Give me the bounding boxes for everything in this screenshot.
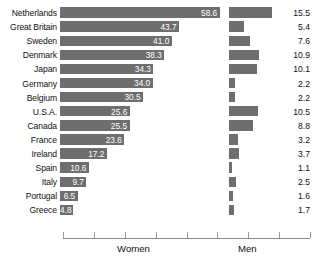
category-label: Ireland [0, 149, 60, 159]
bar-men-value-label: 10.5 [279, 107, 313, 117]
chart-row: Germany34.02.2 [0, 76, 313, 90]
category-label: Belgium [0, 93, 60, 103]
x-axis-line [63, 238, 310, 239]
bar-men-value-label: 15.5 [279, 8, 313, 18]
category-label: Canada [0, 121, 60, 131]
men-bar-zone [229, 20, 279, 34]
bar-men-value-label: 8.8 [279, 121, 313, 131]
men-bar-zone [229, 175, 279, 189]
bar-men [229, 106, 258, 116]
bar-men [229, 64, 257, 74]
bar-men [229, 21, 244, 31]
chart-row: Ireland17.23.7 [0, 147, 313, 161]
category-label: Spain [0, 163, 60, 173]
chart-rows: Netherlands58.615.5Great Britain43.75.4S… [0, 6, 313, 217]
chart-row: U.S.A.25.610.5 [0, 105, 313, 119]
bar-men [229, 148, 239, 158]
women-bar-zone: 58.6 [60, 6, 229, 20]
bar-men-value-label: 1.7 [279, 205, 313, 215]
axis-caption-women: Women [117, 243, 150, 255]
women-bar-zone: 38.3 [60, 48, 229, 62]
bar-women-value-label: 58.6 [60, 8, 220, 18]
category-label: Netherlands [0, 8, 60, 18]
bar-men [229, 191, 233, 201]
bar-women-value-label: 23.6 [60, 135, 124, 145]
bar-women-value-label: 4.8 [60, 205, 73, 215]
bar-women-value-label: 25.6 [60, 107, 130, 117]
category-label: Portugal [0, 191, 60, 201]
category-label: U.S.A. [0, 107, 60, 117]
women-bar-zone: 25.6 [60, 105, 229, 119]
women-bar-zone: 41.0 [60, 34, 229, 48]
men-bar-zone [229, 189, 279, 203]
x-axis-tick [217, 232, 218, 238]
women-bar-zone: 30.5 [60, 91, 229, 105]
men-bar-zone [229, 34, 279, 48]
women-bar-zone: 17.2 [60, 147, 229, 161]
women-bar-zone: 10.6 [60, 161, 229, 175]
category-label: Japan [0, 64, 60, 74]
bar-men [229, 162, 232, 172]
bar-women-value-label: 41.0 [60, 36, 172, 46]
bar-men-value-label: 5.4 [279, 22, 313, 32]
x-axis-tick [125, 232, 126, 238]
men-bar-zone [229, 203, 279, 217]
bar-men [229, 92, 235, 102]
women-bar-zone: 34.0 [60, 76, 229, 90]
x-axis-tick [279, 232, 280, 238]
bar-men [229, 134, 238, 144]
bar-men [229, 36, 250, 46]
category-label: Sweden [0, 36, 60, 46]
category-label: Denmark [0, 50, 60, 60]
bar-men-value-label: 2.2 [279, 93, 313, 103]
category-label: France [0, 135, 60, 145]
x-axis-tick [310, 232, 311, 238]
women-bar-zone: 4.8 [60, 203, 229, 217]
bar-women-value-label: 6.5 [60, 191, 78, 201]
chart-row: Netherlands58.615.5 [0, 6, 313, 20]
chart-row: Canada25.58.8 [0, 119, 313, 133]
category-label: Great Britain [0, 22, 60, 32]
women-bar-zone: 25.5 [60, 119, 229, 133]
bar-men-value-label: 3.7 [279, 149, 313, 159]
men-bar-zone [229, 62, 279, 76]
axis-caption-men: Men [238, 243, 257, 255]
bar-women-value-label: 17.2 [60, 149, 107, 159]
x-axis-tick [63, 232, 64, 238]
bar-men [229, 50, 259, 60]
women-bar-zone: 43.7 [60, 20, 229, 34]
bar-women-value-label: 38.3 [60, 50, 164, 60]
chart-row: Greece4.81.7 [0, 203, 313, 217]
chart-row: France23.63.2 [0, 133, 313, 147]
chart-row: Great Britain43.75.4 [0, 20, 313, 34]
men-bar-zone [229, 105, 279, 119]
men-bar-zone [229, 133, 279, 147]
bar-men-value-label: 1.1 [279, 163, 313, 173]
bar-men [229, 205, 234, 215]
men-bar-zone [229, 119, 279, 133]
bar-women-value-label: 34.3 [60, 64, 153, 74]
chart-row: Portugal6.51.6 [0, 189, 313, 203]
bar-men-value-label: 3.2 [279, 135, 313, 145]
x-axis-tick [248, 232, 249, 238]
bar-men-value-label: 2.5 [279, 177, 313, 187]
women-bar-zone: 9.7 [60, 175, 229, 189]
x-axis-tick [94, 232, 95, 238]
bar-men-value-label: 10.1 [279, 64, 313, 74]
x-axis-tick [156, 232, 157, 238]
chart-row: Denmark38.310.9 [0, 48, 313, 62]
bar-men [229, 177, 236, 187]
men-bar-zone [229, 76, 279, 90]
bar-women-value-label: 25.5 [60, 121, 130, 131]
bar-women-value-label: 43.7 [60, 22, 179, 32]
bar-women-value-label: 9.7 [60, 177, 86, 187]
category-label: Greece [0, 205, 60, 215]
women-bar-zone: 6.5 [60, 189, 229, 203]
chart-row: Italy9.72.5 [0, 175, 313, 189]
chart-row: Sweden41.07.6 [0, 34, 313, 48]
bar-men [229, 78, 235, 88]
category-label: Germany [0, 79, 60, 89]
chart-row: Spain10.61.1 [0, 161, 313, 175]
bar-women-value-label: 30.5 [60, 92, 143, 102]
women-bar-zone: 23.6 [60, 133, 229, 147]
